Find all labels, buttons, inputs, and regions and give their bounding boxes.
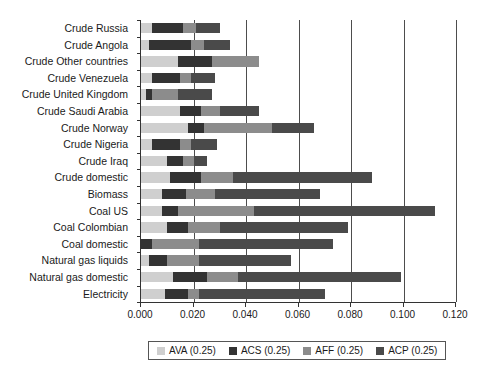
stacked-bar: [141, 272, 401, 282]
stacked-bar: [141, 40, 230, 50]
bar-row: [141, 20, 456, 37]
legend-item[interactable]: ACS (0.25): [229, 345, 290, 356]
gridline: [456, 20, 457, 302]
y-axis-label: Crude Norway: [0, 120, 134, 137]
y-axis-label: Coal domestic: [0, 236, 134, 253]
bar-row: [141, 153, 456, 170]
bar-segment-ava: [141, 255, 149, 265]
bar-segment-acs: [152, 23, 184, 33]
bar-segment-aff: [207, 272, 239, 282]
bar-segment-ava: [141, 206, 162, 216]
stacked-bar: [141, 139, 217, 149]
x-axis-tick-labels: 0.0000.0200.0400.0600.0800.1000.120: [0, 309, 489, 323]
bar-segment-acs: [149, 40, 191, 50]
bar-segment-aff: [201, 172, 233, 182]
bar-segment-acp: [215, 189, 320, 199]
bar-row: [141, 219, 456, 236]
bar-segment-ava: [141, 156, 167, 166]
legend-item[interactable]: AVA (0.25): [157, 345, 216, 356]
bar-segment-acs: [152, 73, 181, 83]
y-axis-label: Crude Iraq: [0, 153, 134, 170]
bar-segment-acs: [152, 139, 181, 149]
y-axis-label: Electricity: [0, 286, 134, 303]
bar-segment-aff: [191, 40, 204, 50]
stacked-bar: [141, 289, 325, 299]
bar-segment-ava: [141, 272, 173, 282]
stacked-bar: [141, 73, 215, 83]
legend-label: ACP (0.25): [388, 345, 437, 356]
y-axis-label: Natural gas liquids: [0, 252, 134, 269]
bar-segment-aff: [152, 239, 199, 249]
bar-row: [141, 136, 456, 153]
bar-segment-acs: [170, 172, 202, 182]
bar-segment-acs: [188, 123, 204, 133]
bar-row: [141, 203, 456, 220]
stacked-bar-chart: Crude RussiaCrude AngolaCrude Other coun…: [0, 0, 489, 377]
x-axis-tick-label: 0.100: [390, 309, 415, 320]
bar-segment-aff: [178, 206, 254, 216]
bar-segment-ava: [141, 289, 165, 299]
y-axis-label: Crude Venezuela: [0, 70, 134, 87]
bar-segment-acs: [180, 106, 201, 116]
bar-segment-acp: [220, 222, 349, 232]
bar-segment-acs: [167, 222, 188, 232]
bar-segment-ava: [141, 40, 149, 50]
bar-row: [141, 120, 456, 137]
bar-row: [141, 186, 456, 203]
bar-segment-aff: [188, 222, 220, 232]
bar-segment-ava: [141, 73, 152, 83]
bar-row: [141, 86, 456, 103]
y-axis-label: Crude Saudi Arabia: [0, 103, 134, 120]
x-axis-tick: [350, 302, 351, 307]
plot-area: [140, 20, 456, 302]
stacked-bar: [141, 156, 207, 166]
stacked-bar: [141, 123, 314, 133]
x-axis-tick-label: 0.040: [232, 309, 257, 320]
y-axis-label: Crude Russia: [0, 20, 134, 37]
x-axis-tick-label: 0.000: [127, 309, 152, 320]
bar-segment-acs: [165, 289, 189, 299]
bar-segment-acp: [196, 23, 220, 33]
bar-segment-aff: [183, 156, 194, 166]
x-axis-tick: [193, 302, 194, 307]
stacked-bar: [141, 255, 291, 265]
x-axis-tick: [403, 302, 404, 307]
x-axis-tick-label: 0.120: [442, 309, 467, 320]
x-axis-tick: [245, 302, 246, 307]
bar-segment-acp: [191, 73, 215, 83]
bar-row: [141, 37, 456, 54]
bar-segment-aff: [152, 89, 178, 99]
bar-segment-aff: [167, 255, 199, 265]
legend-item[interactable]: AFF (0.25): [303, 345, 363, 356]
chart-legend: AVA (0.25)ACS (0.25)AFF (0.25)ACP (0.25): [148, 341, 446, 360]
bar-segment-aff: [188, 289, 199, 299]
bar-segment-acp: [238, 272, 401, 282]
y-axis-label: Biomass: [0, 186, 134, 203]
bar-row: [141, 269, 456, 286]
bar-row: [141, 252, 456, 269]
y-axis-label: Crude Angola: [0, 37, 134, 54]
bar-row: [141, 103, 456, 120]
bar-row: [141, 169, 456, 186]
bar-segment-acs: [162, 206, 178, 216]
bar-segment-acp: [199, 255, 291, 265]
bar-segment-acp: [272, 123, 314, 133]
bar-segment-acs: [149, 255, 167, 265]
bar-segment-acp: [233, 172, 372, 182]
bar-segment-acs: [178, 56, 212, 66]
bar-segment-aff: [201, 106, 219, 116]
y-axis-label: Natural gas domestic: [0, 269, 134, 286]
y-axis-category-labels: Crude RussiaCrude AngolaCrude Other coun…: [0, 20, 134, 302]
x-axis-tick: [298, 302, 299, 307]
bar-segment-acs: [141, 239, 152, 249]
legend-swatch-icon: [157, 347, 165, 355]
bar-segment-acp: [254, 206, 435, 216]
bar-segment-aff: [183, 23, 196, 33]
legend-item[interactable]: ACP (0.25): [376, 345, 437, 356]
bar-segment-acp: [204, 40, 230, 50]
bar-segment-aff: [204, 123, 272, 133]
legend-swatch-icon: [229, 347, 237, 355]
bar-segment-acs: [162, 189, 186, 199]
bar-segment-ava: [141, 139, 152, 149]
bar-segment-ava: [141, 172, 170, 182]
